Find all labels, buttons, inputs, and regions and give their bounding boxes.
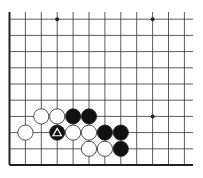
white-stone[interactable] — [50, 109, 65, 124]
white-stone[interactable] — [18, 125, 33, 140]
black-stone[interactable] — [113, 125, 128, 140]
star-point-icon — [151, 17, 155, 21]
white-stone[interactable] — [81, 125, 96, 140]
white-stone[interactable] — [66, 125, 81, 140]
white-stone[interactable] — [97, 141, 112, 156]
star-point-icon — [55, 17, 59, 21]
black-stone[interactable] — [113, 141, 128, 156]
white-stone[interactable] — [34, 109, 49, 124]
black-stone[interactable] — [97, 125, 112, 140]
white-stone[interactable] — [81, 141, 96, 156]
star-point-icon — [151, 114, 155, 118]
black-stone[interactable] — [81, 109, 96, 124]
black-stone[interactable] — [66, 109, 81, 124]
go-board — [0, 0, 203, 178]
